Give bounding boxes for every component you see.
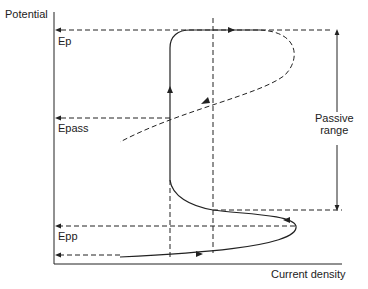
x-axis-label: Current density bbox=[271, 268, 346, 280]
passive-range-line2: range bbox=[315, 124, 354, 136]
curve-arrow-up bbox=[167, 86, 173, 93]
transpassive-curve bbox=[120, 30, 294, 142]
epp-label: Epp bbox=[58, 230, 78, 242]
ep-label: Ep bbox=[58, 35, 71, 47]
passive-range-label: Passive range bbox=[315, 112, 354, 136]
dashed-curve-arrow bbox=[201, 97, 210, 104]
curve-arrow-left-lower bbox=[283, 217, 290, 223]
curve-arrow-right-top bbox=[228, 27, 235, 33]
polarization-diagram bbox=[0, 0, 368, 289]
polarization-curve bbox=[120, 30, 296, 257]
y-axis-label: Potential bbox=[5, 8, 48, 20]
epass-label: Epass bbox=[58, 122, 89, 134]
passive-range-line1: Passive bbox=[315, 112, 354, 124]
